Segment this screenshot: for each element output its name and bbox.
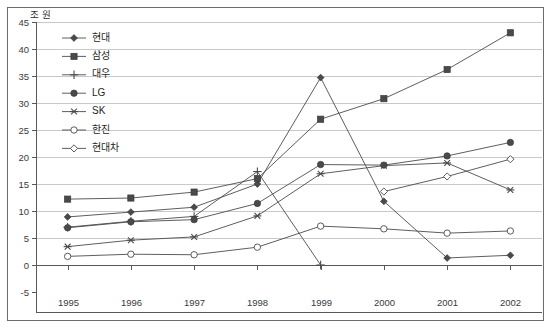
x-tick-label: 1995 [58, 297, 79, 308]
data-point-marker [71, 53, 77, 59]
y-tick-label: 10 [18, 206, 29, 217]
x-tick-label: 2000 [374, 297, 395, 308]
y-tick-label: 35 [18, 71, 29, 82]
x-tick-label: 1997 [184, 297, 205, 308]
data-point-marker [507, 30, 513, 36]
chart-container: -5051015202530354045 1995199619971998199… [0, 0, 551, 328]
x-tick-label: 1996 [121, 297, 142, 308]
x-tick-label: 2002 [500, 297, 521, 308]
y-tick-label: 15 [18, 179, 29, 190]
data-point-marker [254, 176, 260, 182]
data-point-marker [64, 253, 70, 259]
y-tick-label: 30 [18, 98, 29, 109]
data-point-marker [507, 139, 513, 145]
data-point-marker [64, 225, 70, 231]
y-axis-unit-label: 조 원 [30, 9, 51, 20]
legend-label: 현대차 [92, 142, 119, 153]
y-tick-label: 5 [24, 233, 29, 244]
data-point-marker [317, 161, 323, 167]
x-tick-label: 1999 [311, 297, 332, 308]
line-chart: -5051015202530354045 1995199619971998199… [0, 0, 551, 328]
data-point-marker [254, 200, 260, 206]
data-point-marker [128, 219, 134, 225]
data-point-marker [128, 251, 134, 257]
data-point-marker [317, 223, 323, 229]
legend-label: 대우 [92, 68, 110, 79]
data-point-marker [71, 90, 77, 96]
data-point-marker [128, 195, 134, 201]
legend-label: 현대 [92, 32, 110, 43]
y-tick-label: -5 [21, 287, 29, 298]
data-point-marker [444, 153, 450, 159]
legend-label: 한진 [92, 124, 110, 135]
data-point-marker [71, 127, 77, 133]
data-point-marker [254, 244, 260, 250]
data-point-marker [507, 228, 513, 234]
y-tick-label: 25 [18, 125, 29, 136]
data-point-marker [381, 96, 387, 102]
legend-label: LG [92, 87, 106, 98]
data-point-marker [318, 116, 324, 122]
y-tick-label: 0 [24, 260, 29, 271]
legend-label: SK [92, 105, 106, 116]
x-tick-label: 2001 [437, 297, 458, 308]
data-point-marker [444, 66, 450, 72]
data-point-marker [191, 189, 197, 195]
y-tick-label: 45 [18, 17, 29, 28]
data-point-marker [381, 226, 387, 232]
y-tick-label: 20 [18, 152, 29, 163]
data-point-marker [65, 196, 71, 202]
x-tick-label: 1998 [247, 297, 268, 308]
data-point-marker [191, 252, 197, 258]
legend-label: 삼성 [92, 50, 110, 61]
data-point-marker [191, 216, 197, 222]
y-tick-label: 40 [18, 44, 29, 55]
data-point-marker [444, 230, 450, 236]
